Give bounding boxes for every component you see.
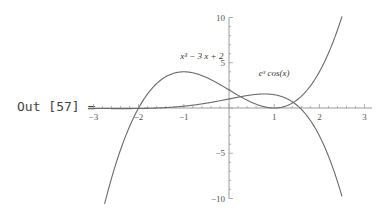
y-tick-label: 10: [216, 13, 226, 23]
curve-cubic: [105, 16, 342, 204]
plot-axes: −3−2−1123105−5−10: [89, 13, 372, 204]
x-tick-label: −3: [89, 112, 99, 122]
plot-curves: [93, 16, 342, 204]
x-tick-label: −1: [179, 112, 189, 122]
y-tick-label: −10: [211, 194, 226, 204]
x-tick-label: 2: [317, 112, 322, 122]
curve-exp-cos: [93, 94, 342, 196]
y-tick-label: −5: [215, 148, 225, 158]
function-plot: −3−2−1123105−5−10 x³ − 3 x + 2eˣ cos(x): [0, 0, 388, 212]
curve-label-exp-cos: eˣ cos(x): [259, 68, 290, 78]
curve-label-cubic: x³ − 3 x + 2: [179, 51, 224, 61]
x-tick-label: 3: [362, 112, 367, 122]
curve-labels: x³ − 3 x + 2eˣ cos(x): [179, 51, 289, 78]
x-tick-label: 1: [272, 112, 277, 122]
